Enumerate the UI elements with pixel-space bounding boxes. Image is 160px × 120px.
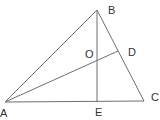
triangle-diagram: B A C D O E (0, 0, 160, 120)
label-e: E (95, 106, 102, 118)
label-c: C (151, 91, 159, 103)
segment-ac (5, 101, 144, 102)
segment-ab (5, 10, 97, 102)
label-o: O (85, 48, 94, 60)
label-a: A (0, 107, 8, 119)
segment-bc (97, 10, 144, 101)
segment-ad (5, 51, 118, 102)
label-d: D (128, 46, 136, 58)
label-b: B (108, 4, 115, 16)
